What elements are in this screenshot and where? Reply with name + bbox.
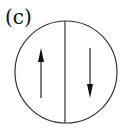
down-arrow-icon	[87, 48, 93, 98]
up-arrow-icon	[38, 48, 44, 98]
domain-diagram	[0, 0, 121, 128]
boundary-circle	[15, 21, 117, 123]
